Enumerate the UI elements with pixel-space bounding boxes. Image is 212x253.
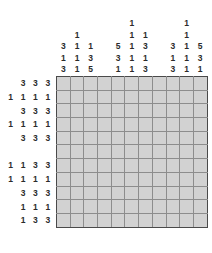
grid-cell[interactable] xyxy=(84,104,98,118)
grid-cell[interactable] xyxy=(166,186,180,200)
grid-cell[interactable] xyxy=(139,186,153,200)
grid-cell[interactable] xyxy=(139,118,153,132)
grid-cell[interactable] xyxy=(152,200,166,214)
grid-cell[interactable] xyxy=(111,200,125,214)
grid-cell[interactable] xyxy=(84,90,98,104)
grid-cell[interactable] xyxy=(152,90,166,104)
grid-cell[interactable] xyxy=(139,104,153,118)
grid-cell[interactable] xyxy=(180,145,194,159)
grid-cell[interactable] xyxy=(193,186,207,200)
grid-cell[interactable] xyxy=(180,213,194,227)
grid-cell[interactable] xyxy=(57,186,71,200)
grid-cell[interactable] xyxy=(98,159,112,173)
grid-cell[interactable] xyxy=(180,172,194,186)
grid-cell[interactable] xyxy=(98,104,112,118)
grid-cell[interactable] xyxy=(180,77,194,91)
grid-cell[interactable] xyxy=(84,213,98,227)
grid-cell[interactable] xyxy=(84,200,98,214)
grid-cell[interactable] xyxy=(193,145,207,159)
grid-cell[interactable] xyxy=(125,159,139,173)
grid-cell[interactable] xyxy=(70,200,84,214)
grid-cell[interactable] xyxy=(57,131,71,145)
grid-cell[interactable] xyxy=(98,90,112,104)
grid-cell[interactable] xyxy=(139,131,153,145)
grid-cell[interactable] xyxy=(152,104,166,118)
grid-cell[interactable] xyxy=(70,131,84,145)
grid-cell[interactable] xyxy=(125,104,139,118)
grid-cell[interactable] xyxy=(139,213,153,227)
grid-cell[interactable] xyxy=(70,159,84,173)
grid-cell[interactable] xyxy=(111,131,125,145)
grid-cell[interactable] xyxy=(111,77,125,91)
grid-cell[interactable] xyxy=(152,172,166,186)
grid-cell[interactable] xyxy=(57,200,71,214)
grid-cell[interactable] xyxy=(166,172,180,186)
grid-cell[interactable] xyxy=(57,145,71,159)
grid-cell[interactable] xyxy=(125,77,139,91)
grid-cell[interactable] xyxy=(193,104,207,118)
grid-cell[interactable] xyxy=(180,90,194,104)
grid-cell[interactable] xyxy=(111,172,125,186)
grid-cell[interactable] xyxy=(139,172,153,186)
grid-cell[interactable] xyxy=(180,186,194,200)
grid-cell[interactable] xyxy=(70,104,84,118)
grid-cell[interactable] xyxy=(152,213,166,227)
grid-cell[interactable] xyxy=(57,118,71,132)
grid-cell[interactable] xyxy=(166,118,180,132)
grid-cell[interactable] xyxy=(152,118,166,132)
grid-cell[interactable] xyxy=(193,159,207,173)
grid-cell[interactable] xyxy=(125,172,139,186)
grid-cell[interactable] xyxy=(57,172,71,186)
grid-cell[interactable] xyxy=(70,118,84,132)
grid-cell[interactable] xyxy=(98,77,112,91)
grid-cell[interactable] xyxy=(180,131,194,145)
grid-cell[interactable] xyxy=(180,118,194,132)
grid-cell[interactable] xyxy=(193,131,207,145)
grid-cell[interactable] xyxy=(125,186,139,200)
grid-cell[interactable] xyxy=(180,104,194,118)
grid-cell[interactable] xyxy=(70,77,84,91)
grid-cell[interactable] xyxy=(166,131,180,145)
grid-cell[interactable] xyxy=(57,90,71,104)
grid-cell[interactable] xyxy=(84,172,98,186)
grid-cell[interactable] xyxy=(193,213,207,227)
grid-cell[interactable] xyxy=(98,131,112,145)
grid-cell[interactable] xyxy=(125,118,139,132)
grid-cell[interactable] xyxy=(125,213,139,227)
grid-cell[interactable] xyxy=(125,131,139,145)
grid-cell[interactable] xyxy=(57,213,71,227)
grid-cell[interactable] xyxy=(84,159,98,173)
grid-cell[interactable] xyxy=(57,159,71,173)
grid-cell[interactable] xyxy=(84,77,98,91)
grid-cell[interactable] xyxy=(70,186,84,200)
grid-cell[interactable] xyxy=(98,200,112,214)
grid-cell[interactable] xyxy=(125,90,139,104)
grid-cell[interactable] xyxy=(152,77,166,91)
grid-cell[interactable] xyxy=(70,90,84,104)
grid-cell[interactable] xyxy=(193,77,207,91)
grid-cell[interactable] xyxy=(111,90,125,104)
grid-cell[interactable] xyxy=(139,200,153,214)
grid-cell[interactable] xyxy=(180,200,194,214)
grid-cell[interactable] xyxy=(84,186,98,200)
grid-cell[interactable] xyxy=(111,104,125,118)
grid-cell[interactable] xyxy=(70,145,84,159)
grid-cell[interactable] xyxy=(139,145,153,159)
grid-cell[interactable] xyxy=(152,145,166,159)
grid-cell[interactable] xyxy=(193,90,207,104)
grid-cell[interactable] xyxy=(152,186,166,200)
grid-cell[interactable] xyxy=(193,118,207,132)
grid-cell[interactable] xyxy=(70,172,84,186)
grid-cell[interactable] xyxy=(57,77,71,91)
grid-cell[interactable] xyxy=(166,159,180,173)
grid-cell[interactable] xyxy=(84,145,98,159)
grid-cell[interactable] xyxy=(84,118,98,132)
grid-cell[interactable] xyxy=(125,200,139,214)
grid-cell[interactable] xyxy=(139,159,153,173)
grid-cell[interactable] xyxy=(57,104,71,118)
grid-cell[interactable] xyxy=(152,131,166,145)
grid-cell[interactable] xyxy=(166,213,180,227)
grid-cell[interactable] xyxy=(98,172,112,186)
grid-cell[interactable] xyxy=(111,159,125,173)
grid-cell[interactable] xyxy=(139,77,153,91)
